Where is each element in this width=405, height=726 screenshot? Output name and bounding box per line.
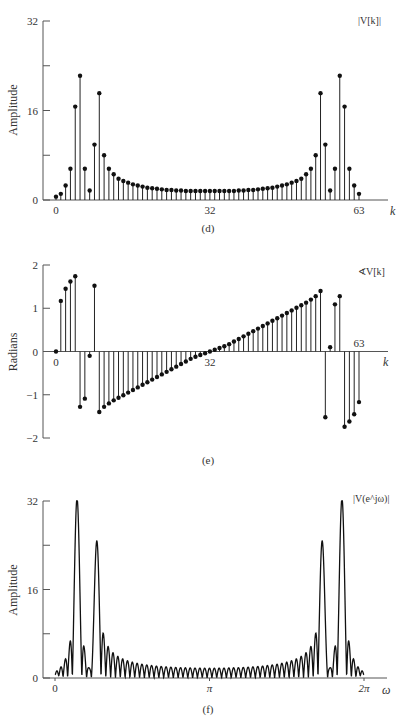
stem-marker <box>179 362 183 366</box>
stem-marker <box>169 367 173 371</box>
stem-marker <box>92 284 96 288</box>
stem-marker <box>309 166 313 170</box>
stem-marker <box>78 405 82 409</box>
stem-marker <box>270 185 274 189</box>
stem-marker <box>227 189 231 193</box>
stem-marker <box>68 279 72 283</box>
stem-marker <box>232 339 236 343</box>
stem-marker <box>338 294 342 298</box>
stem-marker <box>140 383 144 387</box>
stem-marker <box>251 188 255 192</box>
plot-area: 016320π2π <box>27 495 387 694</box>
x-tick-label: 0 <box>53 356 59 368</box>
stem-marker <box>112 172 116 176</box>
stem-marker <box>304 172 308 176</box>
stem-marker <box>232 189 236 193</box>
stem-marker <box>294 306 298 310</box>
stem-marker <box>213 348 217 352</box>
stem-marker <box>54 194 58 198</box>
stem-marker <box>289 180 293 184</box>
stem-marker <box>136 183 140 187</box>
magnitude-dtft-chart: 016320π2π |V(e^jω)| Amplitude ω (f) <box>6 493 390 716</box>
caption: (e) <box>202 454 215 467</box>
stem-marker <box>174 364 178 368</box>
stem-marker <box>270 319 274 323</box>
stem-marker <box>342 425 346 429</box>
stem-marker <box>126 180 130 184</box>
x-tick-label: 0 <box>53 204 59 216</box>
stem-marker <box>237 337 241 341</box>
stem-marker <box>280 183 284 187</box>
stem-marker <box>285 182 289 186</box>
series-label: |V[k]| <box>358 15 381 26</box>
stem-marker <box>333 166 337 170</box>
stem-marker <box>193 354 197 358</box>
stem-marker <box>73 274 77 278</box>
stem-marker <box>184 189 188 193</box>
stem-marker <box>150 377 154 381</box>
stem-marker <box>131 388 135 392</box>
stem-marker <box>155 375 159 379</box>
stem-marker <box>160 372 164 376</box>
stem-marker <box>241 188 245 192</box>
stem-marker <box>261 187 265 191</box>
stem-marker <box>314 153 318 157</box>
stem-marker <box>323 415 327 419</box>
stem-marker <box>275 184 279 188</box>
y-tick-label: −2 <box>26 432 38 444</box>
stem-marker <box>145 185 149 189</box>
x-tick-label: 2π <box>358 682 370 694</box>
stem-marker <box>97 91 101 95</box>
figure: 0163203263 |V[k]| Amplitude k (d) −2−101… <box>0 0 405 726</box>
x-axis-title: k <box>383 355 389 369</box>
stem-marker <box>116 177 120 181</box>
stem-marker <box>73 104 77 108</box>
stem-marker <box>357 192 361 196</box>
stem-marker <box>285 311 289 315</box>
stem-marker <box>246 332 250 336</box>
x-tick-label: 63 <box>354 204 366 216</box>
stem-marker <box>217 346 221 350</box>
stem-marker <box>102 405 106 409</box>
x-axis-title: k <box>390 204 396 218</box>
stem-marker <box>155 187 159 191</box>
stem-marker <box>140 184 144 188</box>
stem-marker <box>169 188 173 192</box>
stem-marker <box>102 153 106 157</box>
y-tick-label: 16 <box>27 584 39 596</box>
dtft-curve <box>55 501 364 678</box>
stem-marker <box>203 189 207 193</box>
x-tick-label: 63 <box>354 337 366 349</box>
stem-marker <box>352 412 356 416</box>
stem-marker <box>323 142 327 146</box>
stem-marker <box>59 299 63 303</box>
stem-marker <box>184 359 188 363</box>
stem-marker <box>131 182 135 186</box>
y-tick-label: −1 <box>26 389 38 401</box>
y-tick-label: 16 <box>27 105 39 117</box>
stem-marker <box>309 297 313 301</box>
stem-marker <box>357 400 361 404</box>
stem-marker <box>121 179 125 183</box>
y-axis-title: Amplitude <box>6 564 20 615</box>
stem-marker <box>107 166 111 170</box>
stem-marker <box>198 189 202 193</box>
x-tick-label: π <box>207 682 213 694</box>
y-tick-label: 32 <box>27 495 38 507</box>
stem-marker <box>314 294 318 298</box>
stem-marker <box>87 188 91 192</box>
stem-marker <box>289 308 293 312</box>
stem-marker <box>256 187 260 191</box>
stem-marker <box>347 419 351 423</box>
stem-marker <box>318 289 322 293</box>
stem-marker <box>188 357 192 361</box>
series-label: |V(e^jω)| <box>353 493 389 505</box>
stem-marker <box>265 186 269 190</box>
y-axis-title: Radians <box>6 332 20 371</box>
caption: (f) <box>203 703 214 716</box>
stem-marker <box>179 188 183 192</box>
stem-marker <box>160 187 164 191</box>
y-tick-label: 0 <box>33 672 39 684</box>
stem-marker <box>338 74 342 78</box>
y-tick-label: 1 <box>33 302 39 314</box>
